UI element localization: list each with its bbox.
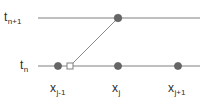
space-node-label-x-jp1-subscript: j+1 [175, 88, 186, 97]
characteristic-line [70, 18, 118, 66]
space-node-label-x-j: xj [112, 82, 120, 94]
stencil-point-upper-x-j [114, 14, 122, 22]
time-level-label-t-n: tn [20, 59, 28, 71]
stencil-figure: tn+1 tn xj-1 xj xj+1 [0, 0, 209, 101]
time-level-label-t-n-base: t [20, 58, 23, 72]
space-node-label-x-jp1: xj+1 [168, 82, 185, 94]
open-square-marker-icon [67, 63, 73, 69]
space-node-label-x-jm1: xj-1 [50, 82, 65, 94]
space-node-label-x-j-base: x [112, 81, 118, 95]
stencil-point-lower-x-jp1 [174, 62, 181, 69]
stencil-point-lower-x-j [114, 62, 121, 69]
space-node-label-x-jm1-subscript: j-1 [57, 88, 66, 97]
time-level-label-t-np1: tn+1 [4, 11, 21, 23]
time-level-label-t-np1-subscript: n+1 [8, 17, 22, 26]
time-level-label-t-np1-base: t [4, 10, 7, 24]
stencil-point-lower-x-jm1 [54, 62, 61, 69]
space-node-label-x-jp1-base: x [168, 81, 174, 95]
time-level-label-t-n-subscript: n [24, 65, 28, 74]
space-node-label-x-jm1-base: x [50, 81, 56, 95]
